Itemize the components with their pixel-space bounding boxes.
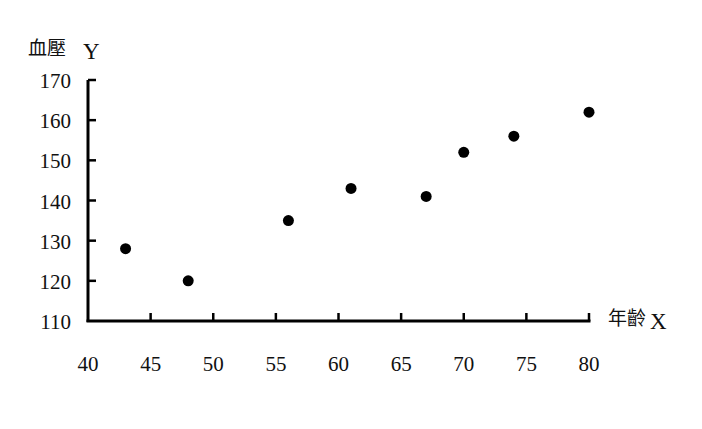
x-tick-label: 80 (579, 352, 600, 376)
x-tick-label: 60 (328, 352, 349, 376)
data-point (183, 275, 194, 286)
x-tick-label: 75 (516, 352, 537, 376)
y-tick-label: 160 (40, 109, 72, 133)
y-axis-title-letter: Y (83, 39, 100, 64)
data-point (120, 243, 131, 254)
data-point (508, 131, 519, 142)
y-tick-label: 150 (40, 149, 72, 173)
y-axis-title-cjk: 血壓 (28, 37, 66, 59)
x-axis: 404550556065707580 (78, 313, 600, 376)
y-tick-label: 130 (40, 230, 72, 254)
x-tick-label: 50 (203, 352, 224, 376)
data-point (421, 191, 432, 202)
x-axis-title-cjk: 年齡 (608, 307, 646, 329)
y-tick-label: 170 (40, 69, 72, 93)
x-tick-label: 70 (453, 352, 474, 376)
data-points (120, 107, 594, 287)
y-tick-label: 140 (40, 190, 72, 214)
data-point (346, 183, 357, 194)
y-tick-label: 110 (40, 310, 71, 334)
x-axis-title-letter: X (650, 309, 667, 334)
y-axis: 110120130140150160170 (40, 69, 97, 334)
y-tick-label: 120 (40, 270, 72, 294)
data-point (584, 107, 595, 118)
x-tick-label: 40 (78, 352, 99, 376)
data-point (458, 147, 469, 158)
x-tick-label: 65 (391, 352, 412, 376)
x-tick-label: 55 (265, 352, 286, 376)
data-point (283, 215, 294, 226)
x-tick-label: 45 (140, 352, 161, 376)
scatter-chart: 110120130140150160170 404550556065707580… (0, 0, 702, 429)
